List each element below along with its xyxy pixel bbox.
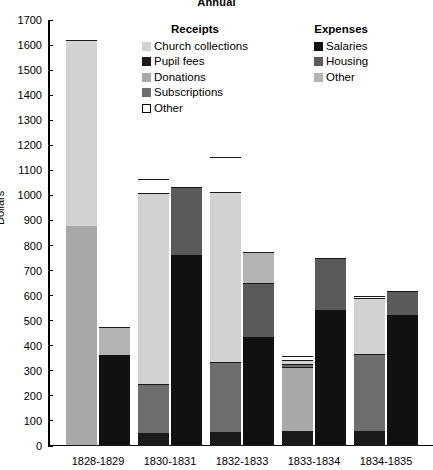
legend-expenses-title: Expenses (314, 22, 368, 38)
bar-segment[interactable] (387, 291, 418, 315)
bar-segment[interactable] (354, 298, 385, 353)
y-tick-label: 1700 (18, 15, 42, 25)
y-tick (48, 95, 53, 96)
bar-segment[interactable] (243, 252, 274, 283)
y-tick (48, 45, 53, 46)
y-tick-label: 800 (24, 241, 42, 251)
y-tick (48, 120, 53, 121)
bar-segment[interactable] (354, 296, 385, 299)
bar-receipts[interactable] (66, 41, 97, 446)
legend-receipts-item[interactable]: Donations (142, 70, 248, 86)
legend-item-label: Church collections (154, 39, 248, 55)
legend-swatch-icon (142, 42, 151, 51)
bar-receipts[interactable] (282, 357, 313, 446)
legend-expenses-item[interactable]: Housing (314, 54, 368, 70)
y-tick-label: 1200 (18, 140, 42, 150)
legend-swatch-icon (314, 73, 323, 82)
bar-segment[interactable] (171, 187, 202, 255)
bar-expenses[interactable] (99, 328, 130, 446)
bar-receipts[interactable] (210, 158, 241, 446)
y-tick-label: 1100 (18, 165, 42, 175)
y-tick (48, 395, 53, 396)
bar-segment[interactable] (354, 431, 385, 445)
bar-segment[interactable] (282, 367, 313, 431)
y-tick-label: 400 (24, 341, 42, 351)
y-tick (48, 320, 53, 321)
bar-receipts[interactable] (354, 297, 385, 446)
bar-segment[interactable] (66, 226, 97, 445)
bar-segment[interactable] (210, 157, 241, 192)
y-tick-label: 1400 (18, 90, 42, 100)
y-tick-label: 500 (24, 316, 42, 326)
legend-swatch-icon (142, 88, 151, 97)
bar-segment[interactable] (282, 360, 313, 364)
y-tick-label: 0 (36, 441, 42, 451)
y-tick (48, 370, 53, 371)
y-tick (48, 245, 53, 246)
chart-root: Annual Dollars 0100200300400500600700800… (0, 0, 433, 470)
bar-segment[interactable] (66, 40, 97, 225)
bar-receipts[interactable] (138, 180, 169, 446)
y-tick (48, 145, 53, 146)
legend-receipts-item[interactable]: Other (142, 101, 248, 117)
legend-item-label: Salaries (326, 39, 368, 55)
bar-segment[interactable] (138, 384, 169, 433)
bar-segment[interactable] (138, 433, 169, 445)
bar-segment[interactable] (99, 327, 130, 355)
legend-receipts-item[interactable]: Church collections (142, 39, 248, 55)
legend-swatch-icon (314, 57, 323, 66)
x-tick-label: 1834-1835 (344, 455, 428, 467)
bar-expenses[interactable] (315, 259, 346, 446)
bar-segment[interactable] (315, 258, 346, 309)
legend-expenses: Expenses SalariesHousingOther (314, 22, 368, 85)
y-tick-label: 1000 (18, 190, 42, 200)
bar-segment[interactable] (354, 354, 385, 432)
y-tick (48, 446, 53, 447)
bar-segment[interactable] (315, 310, 346, 445)
bar-segment[interactable] (210, 432, 241, 445)
y-tick (48, 220, 53, 221)
y-tick (48, 170, 53, 171)
y-tick (48, 270, 53, 271)
bar-segment[interactable] (171, 255, 202, 445)
bar-segment[interactable] (243, 283, 274, 337)
y-tick-label: 300 (24, 366, 42, 376)
bar-segment[interactable] (99, 355, 130, 445)
bar-segment[interactable] (282, 431, 313, 445)
bar-segment[interactable] (282, 356, 313, 360)
legend-item-label: Donations (154, 70, 206, 86)
bar-segment[interactable] (138, 179, 169, 193)
y-tick (48, 70, 53, 71)
bar-group (66, 20, 130, 446)
y-tick (48, 195, 53, 196)
bar-expenses[interactable] (387, 292, 418, 446)
legend-swatch-icon (142, 104, 151, 113)
bar-expenses[interactable] (171, 188, 202, 446)
bar-segment[interactable] (210, 192, 241, 362)
y-axis-line (48, 20, 50, 446)
legend-receipts-item[interactable]: Pupil fees (142, 54, 248, 70)
bar-segment[interactable] (282, 364, 313, 368)
y-tick (48, 20, 53, 21)
bar-segment[interactable] (138, 193, 169, 384)
y-tick-label: 200 (24, 391, 42, 401)
bar-expenses[interactable] (243, 253, 274, 446)
bar-segment[interactable] (210, 362, 241, 432)
y-tick-label: 1300 (18, 115, 42, 125)
y-tick (48, 345, 53, 346)
legend-expenses-item[interactable]: Other (314, 70, 368, 86)
legend-item-label: Housing (326, 54, 368, 70)
legend-item-label: Other (154, 101, 183, 117)
y-tick-label: 900 (24, 215, 42, 225)
bar-segment[interactable] (243, 337, 274, 445)
legend-item-label: Other (326, 70, 355, 86)
legend-expenses-item[interactable]: Salaries (314, 39, 368, 55)
legend-receipts-items: Church collectionsPupil feesDonationsSub… (142, 39, 248, 117)
y-tick-label: 1500 (18, 65, 42, 75)
bar-segment[interactable] (387, 315, 418, 445)
legend-receipts-item[interactable]: Subscriptions (142, 85, 248, 101)
legend-receipts: Receipts Church collectionsPupil feesDon… (142, 22, 248, 116)
y-tick (48, 295, 53, 296)
legend-receipts-title: Receipts (142, 22, 248, 38)
legend-swatch-icon (314, 42, 323, 51)
